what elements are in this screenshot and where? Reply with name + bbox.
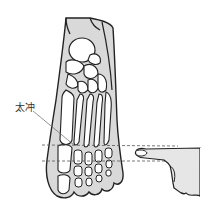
foot-acupoint-diagram: 太冲 [0, 0, 217, 215]
acupoint-label-taichong: 太冲 [15, 103, 35, 113]
hallux-proximal [58, 145, 72, 173]
metatarsal-1 [60, 90, 74, 145]
hallux-distal [58, 175, 70, 194]
